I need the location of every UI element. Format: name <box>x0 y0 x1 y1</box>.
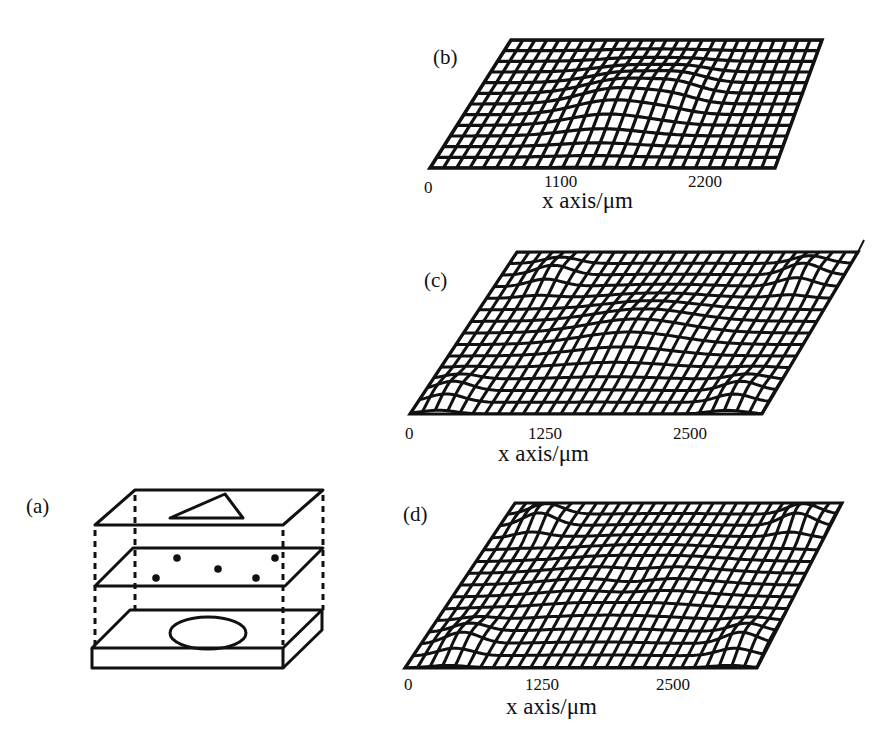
panel-d-x-axis-label: x axis/μm <box>506 694 597 720</box>
panel-d-tick-0: 0 <box>404 675 413 695</box>
panel-d-tick-2500: 2500 <box>656 675 690 695</box>
panel-d-tick-1250: 1250 <box>525 675 559 695</box>
panel-d-mesh <box>0 0 889 742</box>
